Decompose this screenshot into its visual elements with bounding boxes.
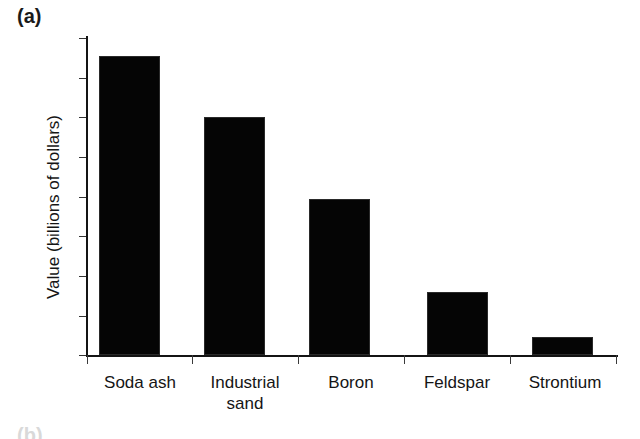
y-tick-6	[79, 117, 86, 118]
bar-soda-ash[interactable]	[99, 56, 160, 355]
y-tick-3	[79, 236, 86, 237]
x-label-soda-ash: Soda ash	[87, 372, 193, 393]
y-tick-1	[79, 316, 86, 317]
x-label-feldspar: Feldspar	[404, 372, 510, 393]
panel-label: (a)	[17, 5, 41, 28]
bar-industrial-sand[interactable]	[204, 117, 265, 355]
bar-boron[interactable]	[309, 199, 370, 355]
x-tick-1	[192, 355, 193, 364]
x-label-line: sand	[192, 393, 298, 414]
y-tick-8	[79, 38, 86, 39]
x-label-line: Strontium	[510, 372, 620, 393]
x-tick-2	[298, 355, 299, 364]
x-axis-line	[86, 355, 618, 357]
bar-feldspar[interactable]	[427, 292, 488, 355]
y-tick-2	[79, 276, 86, 277]
next-panel-label: (b)	[17, 424, 43, 439]
y-axis-title: Value (billions of dollars)	[44, 77, 64, 337]
x-tick-4	[510, 355, 511, 364]
y-tick-0	[79, 355, 86, 356]
x-tick-3	[404, 355, 405, 364]
x-label-line: Feldspar	[404, 372, 510, 393]
x-tick-5	[616, 355, 617, 364]
x-label-line: Industrial	[192, 372, 298, 393]
x-tick-0	[87, 355, 88, 364]
x-label-line: Soda ash	[87, 372, 193, 393]
figure-panel-a: (a) Value (billions of dollars) 8 7 6 5 …	[0, 0, 640, 439]
x-label-industrial-sand: Industrial sand	[192, 372, 298, 414]
bar-strontium[interactable]	[532, 337, 593, 355]
x-label-line: Boron	[298, 372, 404, 393]
y-tick-4	[79, 197, 86, 198]
plot-area	[86, 38, 617, 355]
x-label-boron: Boron	[298, 372, 404, 393]
y-tick-7	[79, 78, 86, 79]
y-tick-5	[79, 157, 86, 158]
x-label-strontium: Strontium	[510, 372, 620, 393]
